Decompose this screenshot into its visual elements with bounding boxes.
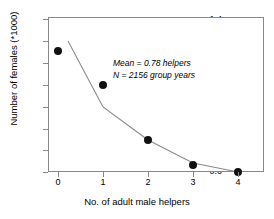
- x-tick-label: 1: [91, 177, 115, 187]
- plot-area: [48, 17, 264, 172]
- data-point: [54, 47, 62, 55]
- y-tick-mark: [43, 172, 48, 173]
- annotation-line-mean: Mean = 0.78 helpers: [113, 57, 195, 69]
- data-point: [144, 136, 152, 144]
- x-tick-label: 4: [226, 177, 250, 187]
- data-point: [189, 161, 197, 169]
- chart-figure: Number of females (*1000) 1.4 1.2 1.0 0.…: [0, 0, 274, 219]
- x-tick-label: 3: [181, 177, 205, 187]
- x-tick-label: 2: [136, 177, 160, 187]
- chart-annotation: Mean = 0.78 helpers N = 2156 group years: [113, 57, 195, 81]
- x-axis-title: No. of adult male helpers: [0, 196, 274, 207]
- y-axis-title: Number of females (*1000): [8, 0, 19, 144]
- data-point: [99, 81, 107, 89]
- x-tick-label: 0: [46, 177, 70, 187]
- annotation-line-n: N = 2156 group years: [113, 69, 195, 81]
